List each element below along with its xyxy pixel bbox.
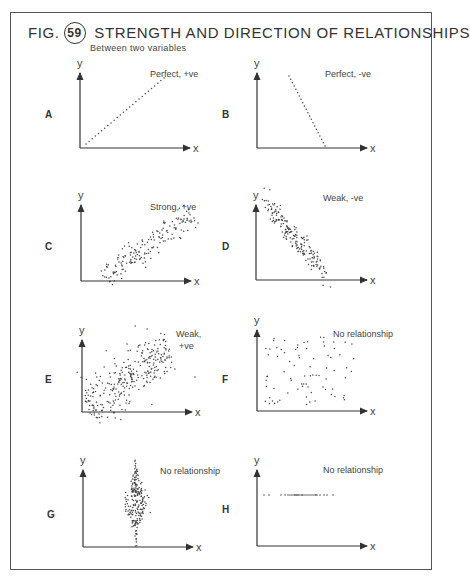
scatter-panel-c: yxCStrong, +ve bbox=[45, 189, 200, 287]
data-point bbox=[148, 343, 150, 345]
data-point bbox=[143, 497, 145, 499]
data-point bbox=[175, 227, 177, 229]
data-point bbox=[130, 517, 132, 519]
data-point bbox=[134, 361, 136, 363]
data-point bbox=[153, 234, 155, 236]
data-point bbox=[269, 397, 271, 399]
data-point bbox=[145, 261, 147, 263]
data-point bbox=[126, 501, 128, 503]
data-point bbox=[134, 487, 136, 489]
data-point bbox=[132, 256, 134, 258]
data-point bbox=[109, 394, 111, 396]
data-point bbox=[140, 491, 142, 493]
data-point bbox=[165, 341, 167, 343]
data-point bbox=[267, 204, 269, 206]
data-point bbox=[136, 545, 138, 547]
data-point bbox=[166, 230, 168, 232]
data-point bbox=[323, 268, 325, 270]
data-point bbox=[294, 235, 296, 237]
data-point bbox=[178, 217, 180, 219]
data-point bbox=[89, 400, 91, 402]
data-point bbox=[121, 392, 123, 394]
data-point bbox=[311, 261, 313, 263]
data-point bbox=[155, 356, 157, 358]
data-point bbox=[105, 350, 107, 352]
data-point bbox=[97, 405, 99, 407]
data-point bbox=[171, 356, 173, 358]
data-point bbox=[149, 362, 151, 364]
data-point bbox=[99, 380, 101, 382]
data-point bbox=[121, 409, 123, 411]
data-point bbox=[165, 345, 167, 347]
data-point bbox=[110, 276, 112, 278]
data-point bbox=[170, 367, 172, 369]
data-point bbox=[166, 371, 168, 373]
data-point bbox=[172, 221, 174, 223]
data-point bbox=[153, 364, 155, 366]
data-point bbox=[301, 244, 303, 246]
data-point bbox=[130, 259, 132, 261]
data-point bbox=[126, 385, 128, 387]
data-point bbox=[132, 507, 134, 509]
data-point bbox=[268, 200, 270, 202]
data-point bbox=[333, 341, 335, 343]
data-point bbox=[165, 348, 167, 350]
data-point bbox=[120, 273, 122, 275]
data-point bbox=[133, 489, 135, 491]
data-point bbox=[144, 344, 146, 346]
data-point bbox=[180, 229, 182, 231]
data-point bbox=[99, 422, 101, 424]
data-point bbox=[135, 504, 137, 506]
data-point bbox=[162, 227, 164, 229]
data-point bbox=[134, 524, 136, 526]
data-point bbox=[91, 138, 93, 140]
data-point bbox=[278, 220, 280, 222]
data-point bbox=[334, 396, 336, 398]
data-point bbox=[132, 514, 134, 516]
data-point bbox=[344, 341, 346, 343]
data-point bbox=[280, 226, 282, 228]
data-point bbox=[264, 200, 266, 202]
data-point bbox=[92, 396, 94, 398]
data-point bbox=[138, 475, 140, 477]
data-point bbox=[305, 260, 307, 262]
data-point bbox=[141, 516, 143, 518]
data-point bbox=[306, 348, 308, 350]
data-point bbox=[269, 348, 271, 350]
data-point bbox=[141, 505, 143, 507]
data-point bbox=[125, 270, 127, 272]
data-point bbox=[118, 254, 120, 256]
scatter-panel-g: yxGNo relationship bbox=[47, 454, 220, 553]
data-point bbox=[148, 252, 150, 254]
data-point bbox=[314, 400, 316, 402]
data-point bbox=[303, 250, 305, 252]
data-point bbox=[162, 237, 164, 239]
data-point bbox=[296, 248, 298, 250]
data-point bbox=[119, 405, 121, 407]
data-point bbox=[89, 412, 91, 414]
x-axis-label: x bbox=[193, 142, 199, 154]
data-point bbox=[138, 512, 140, 514]
y-axis-label: y bbox=[80, 454, 86, 466]
data-point bbox=[93, 406, 95, 408]
data-point bbox=[308, 494, 310, 496]
data-point bbox=[311, 252, 313, 254]
data-point bbox=[298, 355, 300, 357]
data-point bbox=[164, 359, 166, 361]
data-point bbox=[313, 265, 315, 267]
data-point bbox=[302, 386, 304, 388]
data-point bbox=[128, 368, 130, 370]
data-point bbox=[108, 277, 110, 279]
data-point bbox=[312, 122, 314, 124]
data-point bbox=[138, 506, 140, 508]
data-point bbox=[94, 414, 96, 416]
data-point bbox=[137, 523, 139, 525]
y-axis-label: y bbox=[79, 324, 85, 336]
data-point bbox=[154, 370, 156, 372]
data-point bbox=[353, 358, 355, 360]
data-point bbox=[273, 217, 275, 219]
data-point bbox=[88, 389, 90, 391]
data-point bbox=[136, 379, 138, 381]
data-point bbox=[147, 495, 149, 497]
data-point bbox=[272, 212, 274, 214]
